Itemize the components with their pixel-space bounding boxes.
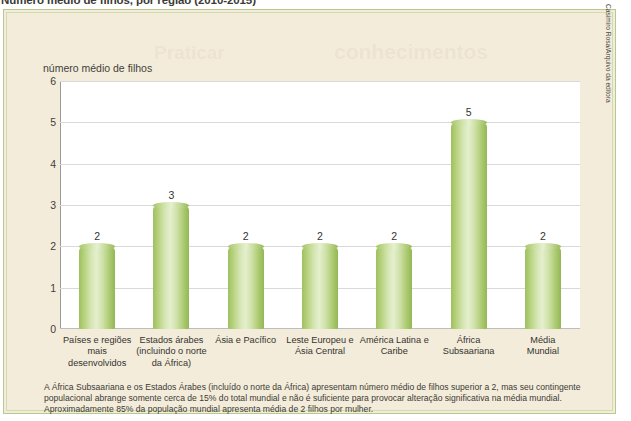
y-axis-tick-label: 4 — [42, 158, 56, 170]
y-axis-tick-label: 1 — [42, 282, 56, 294]
bar[interactable] — [376, 246, 412, 329]
y-axis-tick-label: 2 — [42, 240, 56, 252]
bar-top-cap — [451, 119, 487, 126]
plot-panel — [60, 81, 580, 329]
figure-panel: Praticar conhecimentos número médio de f… — [3, 9, 616, 414]
bar-top-cap — [79, 243, 115, 250]
bar-top-cap — [525, 243, 561, 250]
bar[interactable] — [451, 122, 487, 329]
bar[interactable] — [302, 246, 338, 329]
gridline — [60, 205, 580, 206]
figure-title-strip: Número médio de filhos, por região (2010… — [0, 0, 631, 9]
bar-top-cap — [153, 202, 189, 209]
bar-top-cap — [302, 243, 338, 250]
y-axis-tick-label: 5 — [42, 116, 56, 128]
gridline — [60, 122, 580, 123]
y-axis-tick-label: 6 — [42, 75, 56, 87]
figure-title: Número médio de filhos, por região (2010… — [1, 0, 256, 6]
x-axis-category-label: MédiaMundial — [495, 335, 591, 358]
bar-top-cap — [228, 243, 264, 250]
bar-value-label: 2 — [376, 230, 412, 242]
gridline — [60, 81, 580, 82]
bar[interactable] — [79, 246, 115, 329]
caption-line-3: Aproximadamente 85% da população mundial… — [44, 404, 584, 415]
bar-value-label: 2 — [79, 230, 115, 242]
gridline — [60, 164, 580, 165]
bar-value-label: 3 — [153, 189, 189, 201]
image-credit: Casimiro Rosa/Arquivo da editora — [605, 4, 612, 134]
bar[interactable] — [525, 246, 561, 329]
figure-caption: A África Subsaariana e os Estados Árabes… — [44, 382, 584, 416]
bar-value-label: 2 — [525, 230, 561, 242]
bar[interactable] — [153, 205, 189, 329]
y-axis-title: número médio de filhos — [43, 62, 152, 74]
bar-chart: número médio de filhos 0123456 2Países e… — [4, 10, 617, 415]
bar[interactable] — [228, 246, 264, 329]
bar-value-label: 2 — [228, 230, 264, 242]
bar-value-label: 2 — [302, 230, 338, 242]
y-axis-tick-label: 3 — [42, 199, 56, 211]
y-axis-tick-labels: 0123456 — [40, 81, 56, 329]
bar-value-label: 5 — [451, 106, 487, 118]
caption-line-1: A África Subsaariana e os Estados Árabes… — [44, 382, 584, 393]
caption-line-2: populacional abrange somente cerca de 15… — [44, 393, 584, 404]
bar-top-cap — [376, 243, 412, 250]
y-axis-tick-label: 0 — [42, 323, 56, 335]
